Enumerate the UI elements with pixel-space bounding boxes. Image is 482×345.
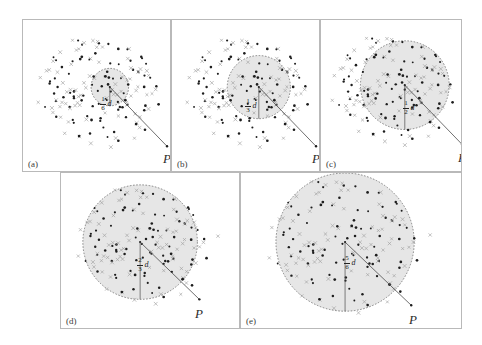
panel-b-label: (b): [177, 159, 188, 169]
panel-b: 1 3 d P (b): [171, 19, 320, 172]
panel-d-label: (d): [66, 316, 77, 326]
panel-a-label: (a): [28, 159, 38, 169]
panel-a-radius-label: 1 6 d: [100, 96, 112, 112]
figure-root: 1 6 d P (a) 1 3 d P (b) 1 2: [0, 0, 482, 345]
panel-b-point-p-label: P: [312, 151, 320, 167]
panel-a-point-p-label: P: [163, 151, 171, 167]
panel-d-point-p-label: P: [195, 306, 203, 322]
panel-c-radius-label: 1 2 d: [403, 100, 415, 116]
panel-a: 1 6 d P (a): [22, 19, 171, 172]
panel-d: 2 3 d P (d): [60, 172, 240, 329]
panel-c: 1 2 d P (c): [320, 19, 462, 172]
panel-e: 5 6 d P (e): [240, 172, 462, 329]
panel-d-scatter: [61, 173, 239, 328]
panel-e-point-p-label: P: [409, 312, 417, 328]
panel-e-radius-label: 5 6 d: [344, 255, 356, 271]
panel-e-label: (e): [246, 316, 256, 326]
panel-d-radius-label: 2 3 d: [137, 257, 149, 273]
panel-a-scatter: [23, 20, 170, 171]
panel-e-scatter: [241, 173, 461, 328]
panel-c-label: (c): [326, 159, 336, 169]
panel-c-scatter: [321, 20, 461, 171]
panel-b-scatter: [172, 20, 319, 171]
panel-c-point-p-label: P: [458, 150, 462, 166]
panel-b-radius-label: 1 3 d: [245, 98, 257, 114]
